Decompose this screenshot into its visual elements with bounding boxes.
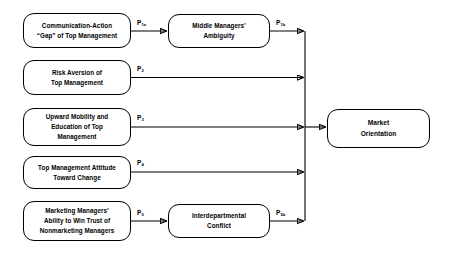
node-label: Communication-Action “Gap” of Top Manage… <box>37 21 117 41</box>
path-label-sub: 1a <box>141 22 146 27</box>
node-label: Market Orientation <box>361 118 397 138</box>
path-label-p5: P5 <box>137 209 144 216</box>
node-interdepartmental-conflict[interactable]: Interdepartmental Conflict <box>168 204 270 238</box>
node-top-management-attitude[interactable]: Top Management Attitude Toward Change <box>23 156 131 189</box>
node-label: Marketing Managers’ Ability to Win Trust… <box>40 206 115 235</box>
path-label-sub: 3 <box>141 117 143 122</box>
path-label-sub: 5b <box>280 212 285 217</box>
node-middle-managers-ambiguity[interactable]: Middle Managers’ Ambiguity <box>168 14 270 48</box>
node-marketing-managers-ability[interactable]: Marketing Managers’ Ability to Win Trust… <box>23 201 131 241</box>
node-label: Risk Aversion of Top Management <box>51 68 103 88</box>
path-label-p3: P3 <box>137 114 144 121</box>
node-risk-aversion[interactable]: Risk Aversion of Top Management <box>23 60 131 95</box>
path-label-sub: 1b <box>280 22 285 27</box>
path-label-p4: P4 <box>137 159 144 166</box>
path-label-p5b: P5b <box>276 209 285 216</box>
path-label-p1a: P1a <box>137 19 146 26</box>
path-label-p2: P2 <box>137 65 144 72</box>
node-upward-mobility-education[interactable]: Upward Mobility and Education of Top Man… <box>23 108 131 146</box>
path-label-sub: 2 <box>141 68 143 73</box>
path-label-sub: 5 <box>141 212 143 217</box>
node-label: Interdepartmental Conflict <box>192 211 246 231</box>
node-label: Middle Managers’ Ambiguity <box>192 21 246 41</box>
flow-diagram: Communication-Action “Gap” of Top Manage… <box>0 0 451 257</box>
node-market-orientation[interactable]: Market Orientation <box>327 109 430 148</box>
node-label: Upward Mobility and Education of Top Man… <box>46 112 109 141</box>
path-label-sub: 4 <box>141 162 143 167</box>
path-label-p1b: P1b <box>276 19 285 26</box>
node-communication-action-gap[interactable]: Communication-Action “Gap” of Top Manage… <box>23 13 131 48</box>
node-label: Top Management Attitude Toward Change <box>38 163 116 183</box>
